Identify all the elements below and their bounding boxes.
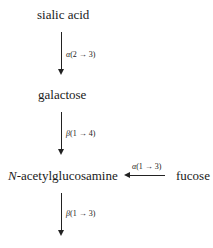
bond-text: (1 → 3) (70, 209, 95, 218)
bond-text: (1 → 3) (136, 162, 161, 171)
arrow-sialic-to-galactose (61, 32, 62, 70)
n-prefix: N (8, 168, 17, 183)
arrow-head-down-icon (58, 149, 64, 155)
edge-label-galactose-glcnac: β(1 → 4) (66, 130, 95, 138)
arrow-glcnac-down (61, 193, 62, 231)
glcnac-name: -acetylglucosamine (17, 168, 118, 183)
node-n-acetylglucosamine: N-acetylglucosamine (8, 169, 118, 182)
arrow-galactose-to-glcnac (61, 112, 62, 150)
bond-text: (2 → 3) (70, 50, 95, 59)
arrow-head-left-icon (124, 172, 130, 178)
edge-label-glcnac-down: β(1 → 3) (66, 210, 95, 218)
edge-label-sialic-galactose: α(2 → 3) (66, 51, 96, 59)
arrow-fucose-to-glcnac (129, 175, 165, 176)
arrow-head-down-icon (58, 230, 64, 236)
bond-text: (1 → 4) (70, 129, 95, 138)
node-fucose: fucose (176, 169, 210, 182)
arrow-head-down-icon (58, 69, 64, 75)
node-galactose: galactose (38, 88, 86, 101)
edge-label-fucose-glcnac: α(1 → 3) (132, 163, 162, 171)
node-sialic-acid: sialic acid (37, 8, 89, 21)
